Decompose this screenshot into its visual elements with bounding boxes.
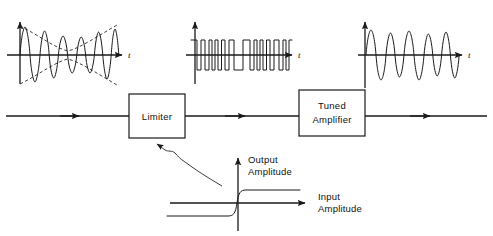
block-tuned-amplifier[interactable]: Tuned Amplifier — [299, 90, 365, 136]
leader-arrow-to-limiter — [157, 144, 222, 186]
waveform2-time-axis-label: t — [298, 50, 301, 60]
figure-canvas: t t t Limiter Tuned — [0, 0, 493, 236]
block-tuned-amplifier-label-line1: Tuned — [318, 100, 346, 111]
diagram-svg: t t t Limiter Tuned — [0, 0, 493, 236]
transfer-curve-y-label-line1: Output — [248, 154, 278, 165]
transfer-curve-x-label-line2: Amplitude — [318, 203, 362, 214]
transfer-curve-x-label-line1: Input — [318, 191, 340, 202]
transfer-curve-plot: Output Amplitude Input Amplitude — [167, 154, 362, 231]
block-limiter-label: Limiter — [142, 111, 172, 122]
waveform1-time-axis-label: t — [128, 50, 131, 60]
block-limiter[interactable]: Limiter — [129, 94, 185, 138]
waveform-plot-limited-square-wave: t — [186, 22, 301, 84]
transfer-curve-y-label-line2: Amplitude — [248, 166, 292, 177]
waveform3-time-axis-label: t — [468, 50, 471, 60]
waveform-plot-output-fm-sine: t — [358, 22, 471, 88]
block-tuned-amplifier-label-line2: Amplifier — [312, 114, 351, 125]
waveform-plot-input-fm-with-am: t — [7, 22, 131, 85]
